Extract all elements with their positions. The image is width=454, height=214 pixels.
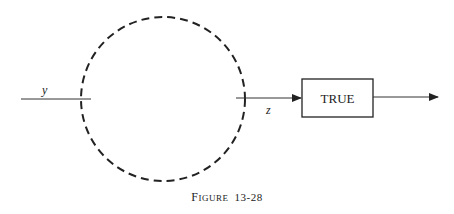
true-block-label: TRUE <box>321 91 355 106</box>
figure-diagram: y z TRUE FIGURE13-28 <box>0 0 454 214</box>
input-label: y <box>41 83 48 97</box>
output-label: z <box>265 103 271 117</box>
dashed-circle-system <box>81 17 245 181</box>
figure-caption: FIGURE13-28 <box>191 190 262 204</box>
